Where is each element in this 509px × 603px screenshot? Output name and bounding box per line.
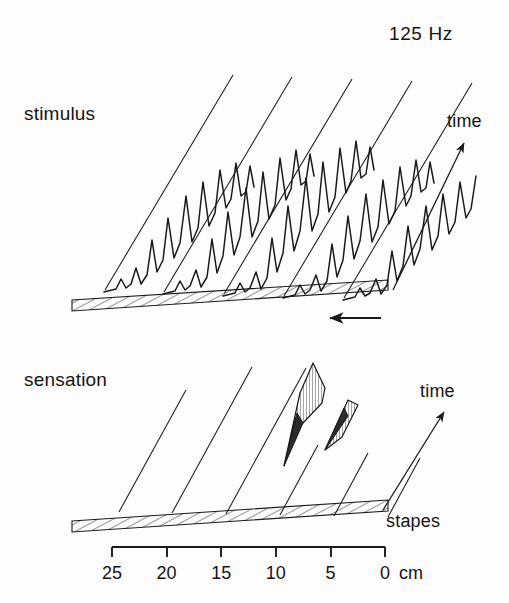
sensation-time-arrow (383, 412, 444, 510)
figure-title: 125 Hz (389, 24, 453, 43)
stimulus-wave-2 (163, 150, 314, 294)
stimulus-panel (72, 75, 476, 311)
sensation-time-axes (119, 367, 420, 517)
sensation-membrane-base (72, 500, 388, 532)
sensation-membrane-surface (72, 500, 388, 532)
stimulus-time-axis-3 (224, 79, 352, 294)
panel-label-sensation: sensation (24, 370, 107, 389)
sensation-time-axis-6 (388, 458, 420, 517)
panel-label-stimulus: stimulus (24, 104, 95, 123)
scale-tick-label-5: 5 (325, 563, 335, 584)
time-axis-label-upper: time (447, 112, 482, 130)
stapes-label: stapes (386, 512, 440, 530)
sensation-time-arrow-shaft (383, 412, 444, 510)
sensation-panel (72, 363, 444, 532)
distance-scale-bar (112, 547, 385, 557)
sensation-time-axis-2 (172, 367, 252, 513)
stimulus-time-arrow (393, 143, 464, 290)
figure-root: 125 Hz stimulus sensation time time stap… (0, 0, 509, 603)
stimulus-time-arrow-shaft (393, 143, 464, 290)
scale-tick-label-25: 25 (102, 563, 122, 584)
scale-tick-label-10: 10 (266, 563, 286, 584)
stimulus-waveforms (104, 141, 476, 300)
sensation-excitation-shapes (284, 363, 358, 466)
stimulus-time-axis-2 (164, 77, 292, 292)
sensation-time-axis-1 (119, 390, 186, 512)
scale-tick-label-0: 0 (380, 563, 390, 584)
scale-unit-label: cm (399, 563, 423, 584)
scale-tick-label-15: 15 (211, 563, 231, 584)
scale-tick-label-20: 20 (157, 563, 177, 584)
stimulus-time-axis-1 (105, 75, 233, 290)
time-axis-label-lower: time (420, 382, 455, 400)
stimulus-wave-1 (104, 163, 254, 292)
